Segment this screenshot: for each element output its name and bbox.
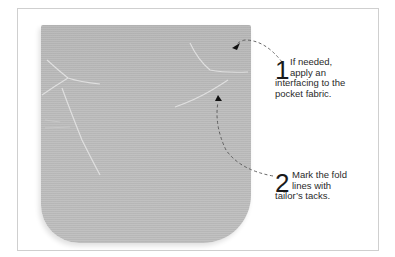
step-text-line: pocket fabric.: [275, 89, 375, 100]
pocket-fabric-image: [41, 25, 251, 243]
step-1-callout: 1 If needed, apply an interfacing to the…: [275, 57, 375, 107]
step-number: 1: [275, 57, 289, 83]
step-text-line: Mark the fold: [275, 170, 375, 181]
step-2-callout: 2 Mark the fold lines with tailor’s tack…: [275, 170, 375, 210]
step-text-line: interfacing to the: [275, 78, 375, 89]
step-text-line: If needed,: [275, 57, 375, 68]
step-text-line: tailor’s tacks.: [275, 191, 375, 202]
step-number: 2: [275, 170, 289, 196]
